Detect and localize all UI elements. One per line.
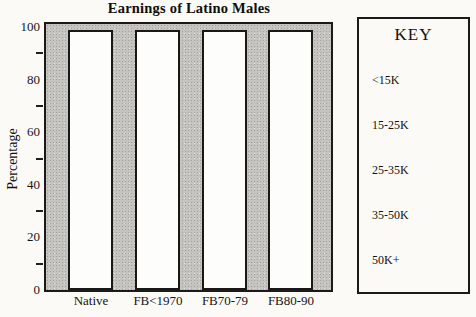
bar-FB70-79 — [202, 30, 247, 290]
legend-title: KEY — [359, 25, 468, 45]
x-tick-label: FB80-90 — [249, 293, 333, 309]
y-tick-label: 0 — [2, 282, 40, 297]
legend-entry: 25-35K — [372, 163, 409, 177]
legend-entry: 15-25K — [372, 118, 409, 132]
y-axis-label: Percentage — [5, 79, 23, 239]
legend-box: KEY <15K15-25K25-35K35-50K50K+ — [357, 17, 470, 294]
y-minor-tick — [36, 158, 43, 160]
chart-title: Earnings of Latino Males — [44, 0, 334, 17]
bar-FB80-90 — [268, 30, 313, 290]
legend-entry: 35-50K — [372, 208, 409, 222]
y-minor-tick — [36, 210, 43, 212]
chart-figure: Earnings of Latino Males Percentage 1008… — [0, 0, 476, 317]
y-tick-label: 20 — [2, 229, 40, 244]
legend-entry: 50K+ — [372, 253, 399, 267]
y-minor-tick — [36, 263, 43, 265]
y-minor-tick — [36, 52, 43, 54]
bar-FB<1970 — [135, 30, 180, 290]
y-tick-label: 100 — [2, 19, 40, 34]
y-tick-label: 40 — [2, 177, 40, 192]
legend-entry: <15K — [372, 73, 399, 87]
y-tick-label: 60 — [2, 124, 40, 139]
plot-area — [44, 22, 333, 292]
y-minor-tick — [36, 105, 43, 107]
y-tick-label: 80 — [2, 72, 40, 87]
bar-Native — [68, 30, 113, 290]
